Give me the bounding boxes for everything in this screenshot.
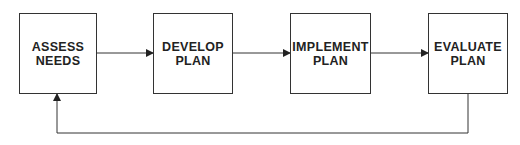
arrow-evaluate-to-assess-feedback <box>57 93 468 133</box>
node-label: IMPLEMENT PLAN <box>292 40 368 68</box>
node-label: EVALUATE PLAN <box>434 40 502 68</box>
node-implement-plan: IMPLEMENT PLAN <box>290 13 371 94</box>
node-develop-plan: DEVELOP PLAN <box>153 13 233 94</box>
node-assess-needs: ASSESS NEEDS <box>19 13 97 94</box>
node-label: ASSESS NEEDS <box>32 40 85 68</box>
node-evaluate-plan: EVALUATE PLAN <box>428 13 508 94</box>
node-label: DEVELOP PLAN <box>162 40 224 68</box>
